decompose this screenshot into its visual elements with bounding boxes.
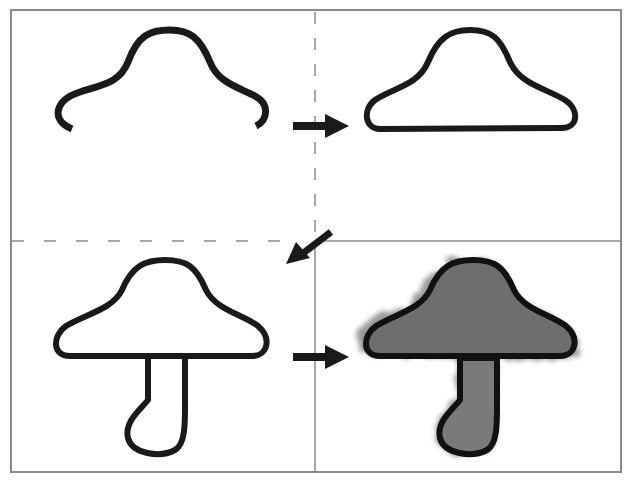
- arrow-down-left-icon: [286, 232, 331, 264]
- arrow-right-icon: [293, 114, 349, 138]
- arrow-right-icon: [293, 345, 349, 369]
- step1-cap-curve: [58, 30, 266, 129]
- step3-cap: [56, 260, 267, 356]
- mushroom-drawing-diagram: [0, 0, 631, 488]
- step4-stem-filled: [439, 358, 497, 454]
- step2-closed-cap: [367, 30, 575, 129]
- step3-stem: [127, 358, 185, 454]
